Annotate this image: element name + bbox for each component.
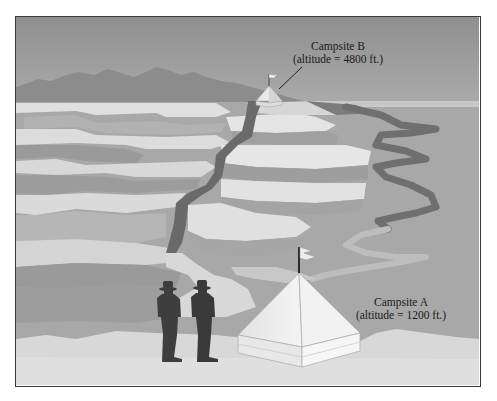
illustration-frame: Campsite B (altitude = 4800 ft.) Campsit…: [15, 16, 481, 387]
campsite-b-label: Campsite B (altitude = 4800 ft.): [268, 40, 408, 66]
campsite-a-name: Campsite A: [336, 296, 466, 309]
mountain-scene: [16, 17, 479, 385]
campsite-a-altitude: (altitude = 1200 ft.): [336, 309, 466, 322]
campsite-b-altitude: (altitude = 4800 ft.): [268, 53, 408, 66]
campsite-b-name: Campsite B: [268, 40, 408, 53]
campsite-a-label: Campsite A (altitude = 1200 ft.): [336, 296, 466, 322]
